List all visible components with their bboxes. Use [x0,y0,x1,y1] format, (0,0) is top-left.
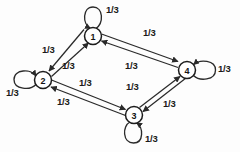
node-2[interactable]: 2 [35,72,52,89]
self-loop-node-2 [14,71,36,88]
edge-label-4-to-3: 1/3 [163,99,176,109]
edge-1-to-4 [102,34,179,62]
edge-label-2-to-1: 1/3 [62,61,75,71]
self-loop-label-node-1: 1/3 [106,5,119,15]
edge-label-4-to-1: 1/3 [125,61,138,71]
node-3-label: 3 [131,111,136,121]
node-1[interactable]: 1 [85,28,102,45]
state-transition-graph: 1 2 3 4 [0,0,240,152]
edge-label-1-to-2: 1/3 [42,45,55,55]
self-loop-node-1 [85,7,102,29]
node-4-label: 4 [184,66,189,76]
edge-4-to-1 [102,41,179,68]
node-4[interactable]: 4 [179,62,196,79]
self-loop-node-3 [125,122,142,143]
node-2-label: 2 [40,76,45,86]
self-loop-node-4 [194,61,216,79]
edge-label-2-to-3: 1/3 [79,78,92,88]
edge-label-3-to-4: 1/3 [126,82,139,92]
self-loop-label-node-4: 1/3 [218,64,231,74]
node-3[interactable]: 3 [126,107,143,124]
node-1-label: 1 [90,32,95,42]
diagram-canvas: 1 2 3 4 1/3 1/3 1/3 1/3 1/3 1/3 1/3 1/3 … [0,0,240,152]
self-loop-label-node-2: 1/3 [6,88,19,98]
edge-label-1-to-4: 1/3 [143,28,156,38]
self-loop-label-node-3: 1/3 [145,134,158,144]
edge-label-3-to-2: 1/3 [57,97,70,107]
